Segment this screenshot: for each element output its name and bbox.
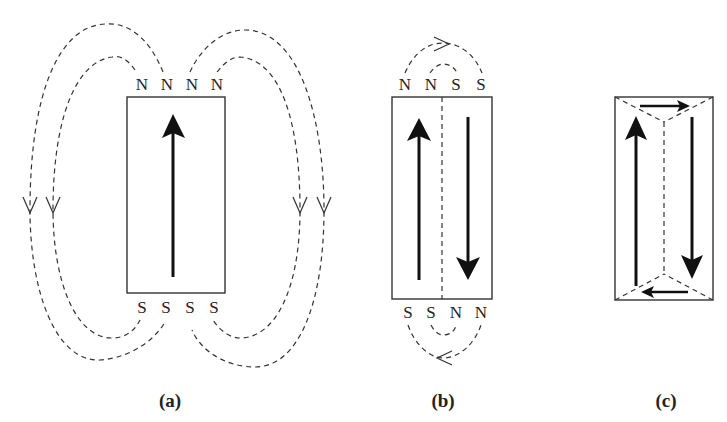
domain-wall	[664, 274, 713, 300]
field-line	[213, 57, 300, 338]
field-direction-arrow-icon	[434, 37, 449, 51]
pole-label: S	[403, 303, 412, 322]
pole-label: N	[211, 75, 223, 94]
domain-figure: N N N N S S S S (a) N	[0, 0, 727, 422]
magnetization-arrow-right-icon	[640, 100, 690, 112]
pole-label: S	[476, 75, 485, 94]
field-line	[408, 325, 481, 358]
magnetization-arrow-up-icon	[625, 116, 647, 286]
pole-label: N	[475, 303, 487, 322]
domain-wall	[615, 97, 664, 122]
field-line	[430, 64, 457, 73]
pole-label: N	[450, 303, 462, 322]
domain-wall	[664, 97, 713, 122]
pole-label: S	[426, 303, 435, 322]
panel-c: (c)	[615, 97, 713, 412]
pole-label: S	[137, 298, 146, 317]
panel-caption: (b)	[431, 390, 454, 412]
pole-label: N	[399, 75, 411, 94]
magnetization-arrow-up-icon	[407, 118, 431, 280]
pole-label: N	[161, 75, 173, 94]
pole-label: N	[425, 75, 437, 94]
pole-label: N	[136, 75, 148, 94]
pole-label: S	[209, 298, 218, 317]
pole-label: S	[185, 298, 194, 317]
magnetization-arrow-left-icon	[641, 286, 688, 298]
field-line	[431, 325, 456, 335]
field-line	[405, 43, 482, 73]
domain-wall	[615, 274, 664, 300]
pole-label: S	[451, 75, 460, 94]
panel-caption: (c)	[655, 390, 676, 412]
panel-caption: (a)	[159, 390, 181, 412]
magnetization-arrow-down-icon	[681, 117, 703, 279]
panel-a: N N N N S S S S (a)	[23, 24, 331, 412]
pole-label: S	[161, 298, 170, 317]
pole-label: N	[186, 75, 198, 94]
magnetization-arrow-up-icon	[162, 114, 185, 277]
magnetization-arrow-down-icon	[456, 117, 480, 280]
panel-b: N N S S S S N N (b)	[392, 37, 492, 412]
